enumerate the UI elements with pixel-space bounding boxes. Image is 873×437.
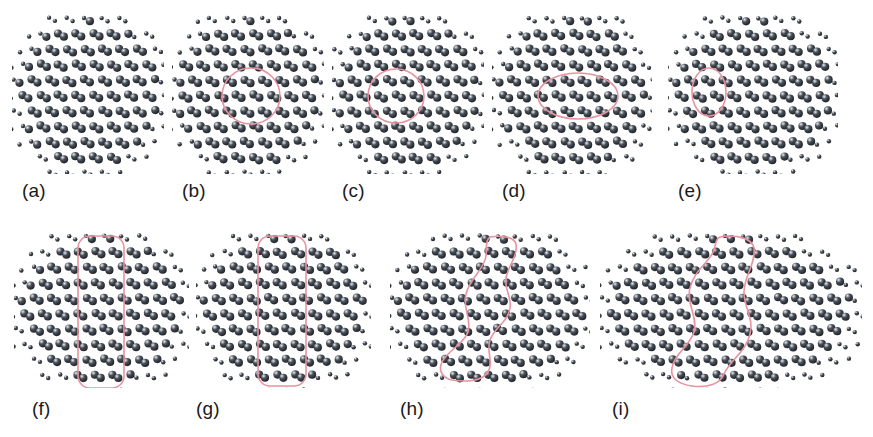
atom <box>68 79 76 87</box>
atom <box>283 234 287 238</box>
atom <box>780 152 788 160</box>
atomic-lattice <box>172 14 324 174</box>
atom <box>621 296 629 304</box>
atom <box>470 107 478 115</box>
atom <box>310 106 318 114</box>
atom <box>685 139 689 143</box>
atom <box>14 314 15 318</box>
atom <box>226 313 234 321</box>
atom <box>25 125 33 133</box>
atom <box>43 94 51 102</box>
atom <box>723 234 727 238</box>
panel-d <box>492 14 652 174</box>
atom <box>674 142 678 146</box>
atom <box>67 234 71 238</box>
atom <box>779 173 783 174</box>
atom <box>237 237 241 241</box>
atom <box>779 19 783 23</box>
atom <box>526 343 534 351</box>
panel-label-c: (c) <box>342 180 365 202</box>
atom <box>332 66 333 70</box>
atom <box>134 375 138 379</box>
atom <box>286 155 290 159</box>
atom <box>281 140 289 148</box>
atom <box>735 281 743 289</box>
atom <box>167 313 175 321</box>
atom <box>231 19 235 23</box>
atom <box>390 314 391 318</box>
atom <box>86 109 94 117</box>
atom <box>287 327 295 335</box>
atom <box>614 16 618 20</box>
atom <box>647 343 655 351</box>
atom <box>508 343 516 351</box>
atom <box>301 387 305 388</box>
atom <box>413 360 417 364</box>
atom <box>406 17 414 25</box>
atom <box>847 265 851 269</box>
atom <box>389 48 397 56</box>
atom <box>220 63 228 71</box>
atom <box>141 359 149 367</box>
atom <box>349 282 357 290</box>
atom <box>106 235 114 243</box>
atom <box>473 374 481 382</box>
atom <box>613 312 621 320</box>
atom <box>744 328 752 336</box>
atom <box>173 356 177 360</box>
atom <box>273 63 281 71</box>
atom <box>248 173 252 174</box>
atom <box>709 235 717 243</box>
atom-group <box>172 16 324 174</box>
atom <box>338 50 342 54</box>
atom <box>244 343 252 351</box>
atom <box>411 328 419 336</box>
atom <box>225 16 229 20</box>
atom <box>46 376 50 380</box>
atom <box>855 280 859 284</box>
atom <box>264 47 272 55</box>
atom <box>513 78 521 86</box>
atom <box>184 95 192 103</box>
atom <box>824 281 832 289</box>
atom <box>398 63 406 71</box>
atom <box>150 343 158 351</box>
atom <box>262 343 270 351</box>
atom <box>38 154 42 158</box>
atom <box>500 236 508 244</box>
atom <box>237 94 245 102</box>
atom <box>532 173 536 174</box>
atom <box>308 371 316 379</box>
atom <box>832 111 836 115</box>
atom <box>557 63 565 71</box>
atom <box>277 169 281 173</box>
atom <box>498 50 502 54</box>
atom <box>600 326 604 330</box>
atom <box>130 125 138 133</box>
atom <box>791 169 795 173</box>
atom <box>601 109 609 117</box>
atom <box>141 296 149 304</box>
atom <box>808 375 812 379</box>
atom <box>465 266 473 274</box>
atom-group <box>600 233 862 388</box>
atom <box>641 123 645 127</box>
atom <box>105 266 113 274</box>
atom <box>804 94 812 102</box>
atom <box>139 78 147 86</box>
atom <box>341 328 349 336</box>
atom <box>797 327 805 335</box>
atom <box>105 327 113 335</box>
atom <box>447 266 455 274</box>
atom <box>193 109 201 117</box>
atom <box>46 252 50 256</box>
atom <box>398 94 406 102</box>
atom <box>540 94 548 102</box>
atom <box>584 17 592 25</box>
atom <box>742 140 750 148</box>
atom <box>407 48 415 56</box>
atom <box>89 266 97 274</box>
atom <box>470 76 478 84</box>
atom <box>148 94 156 102</box>
atom <box>18 297 26 305</box>
